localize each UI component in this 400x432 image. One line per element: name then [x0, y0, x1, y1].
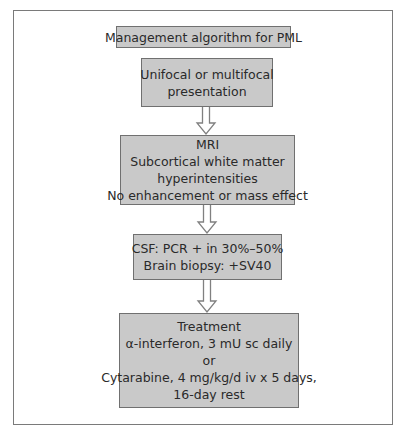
title-text: Management algorithm for PML: [105, 29, 302, 46]
node-presentation: Unifocal or multifocal presentation: [141, 58, 273, 107]
node-text: α-interferon, 3 mU sc daily: [126, 335, 293, 352]
arrow-down-icon: [196, 107, 216, 135]
title-box: Management algorithm for PML: [116, 26, 291, 48]
node-text: 16-day rest: [173, 386, 244, 403]
node-text: CSF: PCR + in 30%–50%: [132, 240, 284, 257]
node-treatment: Treatment α-interferon, 3 mU sc daily or…: [119, 313, 299, 408]
node-text: Unifocal or multifocal: [140, 66, 273, 83]
node-text: Cytarabine, 4 mg/kg/d iv x 5 days,: [101, 369, 317, 386]
node-heading: MRI: [196, 136, 219, 153]
node-mri: MRI Subcortical white matter hyperintens…: [120, 135, 295, 205]
node-text: or: [203, 352, 216, 369]
node-text: Brain biopsy: +SV40: [144, 257, 272, 274]
arrow-down-icon: [197, 205, 217, 234]
node-text: No enhancement or mass effect: [107, 187, 308, 204]
node-text: hyperintensities: [157, 170, 258, 187]
node-heading: Treatment: [177, 318, 241, 335]
node-text: Subcortical white matter: [130, 153, 284, 170]
arrow-down-icon: [197, 280, 217, 313]
node-text: presentation: [167, 83, 246, 100]
node-csf: CSF: PCR + in 30%–50% Brain biopsy: +SV4…: [133, 234, 282, 280]
